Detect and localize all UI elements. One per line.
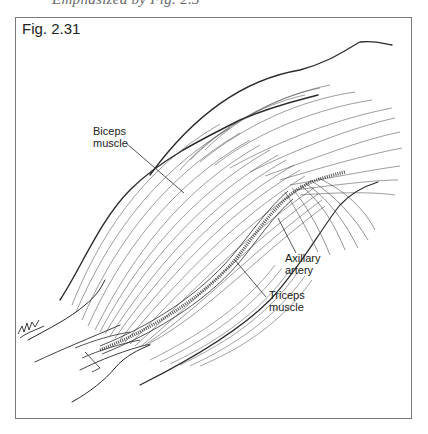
annotation-triceps: Triceps muscle	[269, 289, 305, 313]
arm-muscle-illustration	[0, 0, 428, 434]
annotation-biceps: Biceps muscle	[93, 125, 128, 149]
annotation-axillary-line1: Axillary	[285, 252, 320, 264]
annotation-biceps-line1: Biceps	[93, 125, 128, 137]
annotation-triceps-line1: Triceps	[269, 289, 305, 301]
annotation-biceps-line2: muscle	[93, 137, 128, 149]
annotation-triceps-line2: muscle	[269, 301, 305, 313]
annotation-axillary: Axillary artery	[285, 252, 320, 276]
signature-mark	[18, 320, 44, 338]
forearm-outline-lower	[72, 345, 150, 402]
annotation-axillary-line2: artery	[285, 264, 320, 276]
triceps-pointer-line	[234, 259, 266, 297]
axillary-pointer-line	[278, 218, 296, 253]
